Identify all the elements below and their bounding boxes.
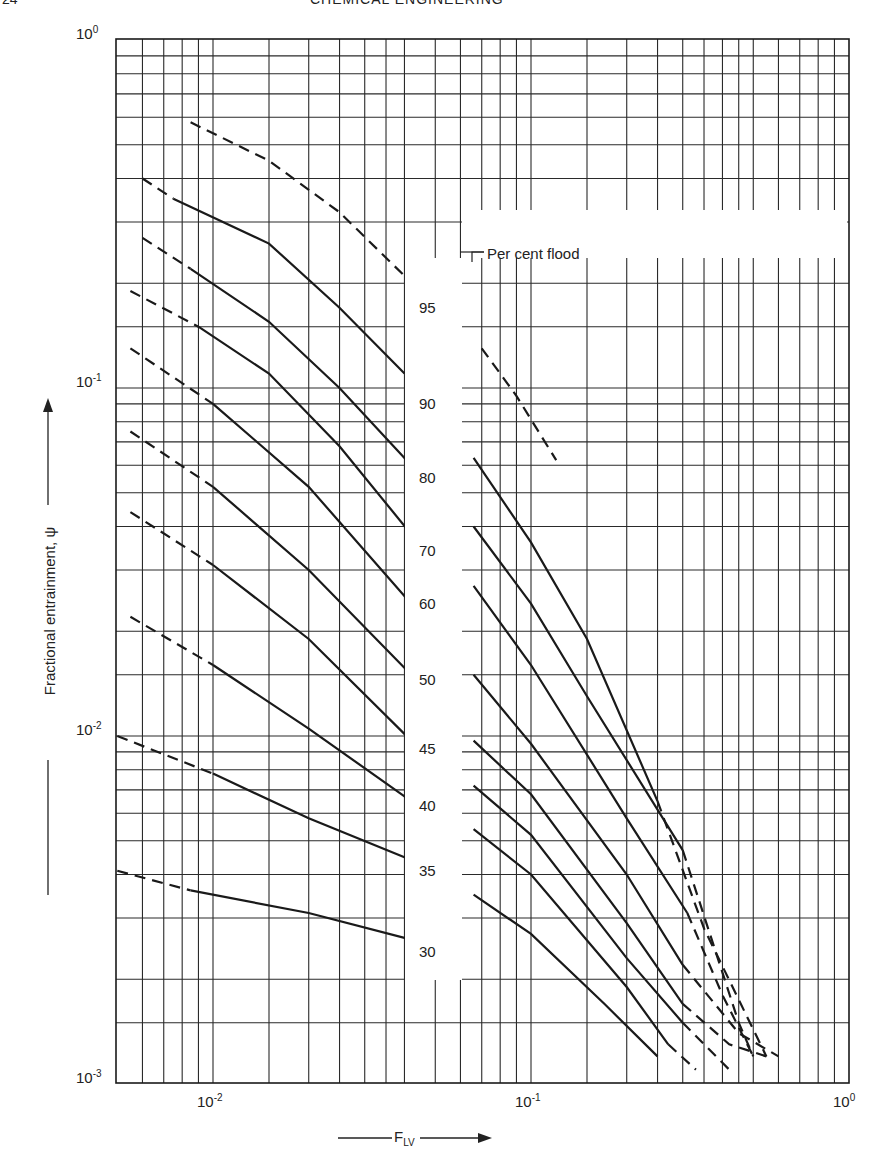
curve-45-percent-flood [474,741,683,1004]
curve-80-percent-flood [191,269,412,465]
curve-60-percent-flood [474,586,688,913]
x-axis-label-main: F [394,1128,403,1145]
flood-percent-label: 80 [418,469,437,486]
curve-30-percent-flood [191,890,412,939]
curve-40-percent-flood [474,786,683,1023]
curve-45-percent-flood [683,1004,767,1057]
x-axis-label: FLV [394,1128,415,1148]
curve-50-percent-flood [474,675,683,965]
flood-percent-label: 50 [418,671,437,688]
label-column-mask [405,210,847,980]
y-tick-label: 100 [76,24,98,42]
curve-50-percent-flood [213,487,411,675]
flood-percent-label: 30 [418,943,437,960]
x-tick-label: 10-1 [515,1092,541,1110]
flood-percent-label: 90 [418,395,437,412]
y-axis-label: Fractional entrainment, ψ [41,411,63,811]
curve-35-percent-flood [213,774,411,861]
curve-70-percent-flood [683,850,754,1056]
x-tick-label: 10-2 [197,1092,223,1110]
grid-lines [116,39,849,1083]
entrainment-chart [0,0,894,1174]
y-axis-arrow-icon [43,398,53,412]
curve-50-percent-flood [683,965,779,1057]
curve-70-percent-flood [130,291,198,327]
curve-35-percent-flood [668,1044,696,1069]
y-tick-label: 10-2 [76,720,102,738]
flood-percent-label: 70 [418,542,437,559]
curve-80-percent-flood [474,458,658,801]
x-tick-label: 100 [833,1092,855,1110]
y-tick-label: 10-3 [76,1068,102,1086]
flood-legend-title: Per cent flood [487,245,580,262]
curve-95-percent-flood [191,122,405,276]
flood-percent-label: 95 [418,299,437,316]
curve-30-percent-flood [474,895,658,1057]
flood-percent-label: 60 [418,595,437,612]
curve-80-percent-flood [143,238,191,269]
curve-40-percent-flood [213,665,411,801]
curve-90-percent-flood [143,179,174,199]
flood-percent-label: 40 [418,797,437,814]
x-axis-arrow-icon [478,1133,492,1143]
curve-70-percent-flood [474,527,683,851]
curve-90-percent-flood [173,199,404,374]
flood-percent-label: 45 [418,740,437,757]
flood-percent-label: 35 [418,862,437,879]
x-axis-label-sub: LV [403,1137,415,1148]
curve-45-percent-flood [213,565,411,741]
curve-80-percent-flood [658,801,767,1056]
curve-35-percent-flood [474,829,669,1044]
curve-30-percent-flood [117,871,190,891]
y-tick-label: 10-1 [76,372,102,390]
